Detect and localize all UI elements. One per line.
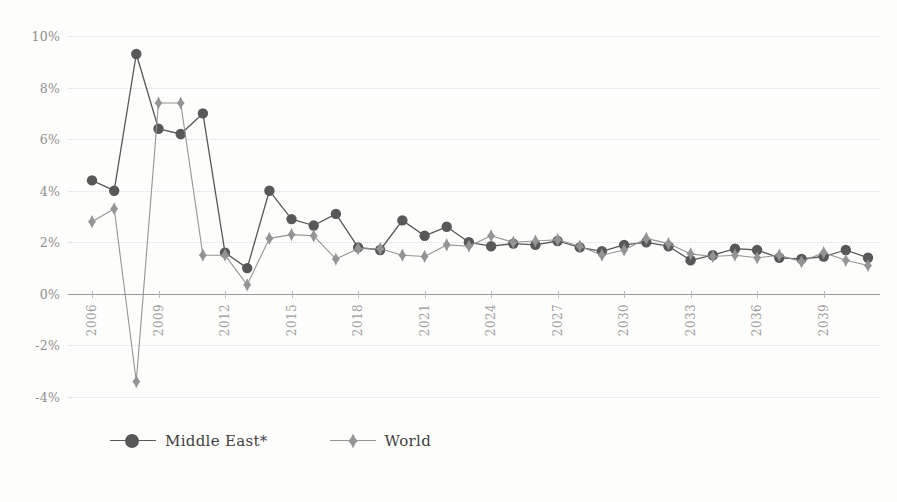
series-world (88, 96, 872, 388)
x-axis-tick-label: 2039 (817, 304, 831, 336)
data-point-circle (264, 186, 274, 196)
x-axis-tick (558, 291, 559, 298)
series-middle-east (87, 49, 873, 273)
x-axis-tick (491, 291, 492, 298)
data-point-diamond (332, 252, 340, 265)
series-line (92, 54, 868, 268)
y-axis-tick-label: 4% (40, 183, 60, 198)
diamond-marker-icon (330, 434, 376, 448)
legend-circle-icon (125, 434, 139, 448)
x-axis-tick (358, 291, 359, 298)
x-axis-tick (92, 291, 93, 298)
x-axis-tick (757, 291, 758, 298)
x-axis-tick-label: 2036 (750, 304, 764, 336)
data-point-circle (841, 245, 851, 255)
legend-item-middle-east[interactable]: Middle East* (110, 432, 268, 450)
data-point-circle (309, 220, 319, 230)
data-point-circle (442, 222, 452, 232)
y-axis-tick-label: -2% (35, 338, 60, 353)
y-axis-tick-label: 0% (40, 286, 60, 301)
x-axis-tick-label: 2024 (484, 304, 498, 336)
data-point-circle (131, 49, 141, 59)
data-point-diamond (88, 215, 96, 228)
x-axis-tick-label: 2021 (418, 304, 432, 336)
x-axis-tick (292, 291, 293, 298)
x-axis-tick-label: 2009 (152, 304, 166, 336)
data-point-circle (286, 214, 296, 224)
data-point-diamond (421, 250, 429, 263)
data-point-circle (331, 209, 341, 219)
x-axis-tick (624, 291, 625, 298)
data-point-diamond (842, 254, 850, 267)
data-point-diamond (487, 229, 495, 242)
x-axis-tick (159, 291, 160, 298)
data-point-circle (198, 108, 208, 118)
data-point-diamond (443, 238, 451, 251)
y-axis-tick-label: 10% (32, 29, 60, 44)
x-axis-tick (691, 291, 692, 298)
x-axis-tick-label: 2012 (218, 304, 232, 336)
y-axis-tick-label: -4% (35, 390, 60, 405)
data-point-circle (486, 241, 496, 251)
data-point-circle (153, 124, 163, 134)
circle-marker-icon (110, 434, 156, 448)
chart-legend: Middle East*World (110, 432, 431, 450)
data-point-diamond (110, 202, 118, 215)
legend-diamond-icon (345, 434, 359, 448)
plot-area: 2006200920122015201820212024202720302033… (68, 0, 880, 502)
y-axis-tick-label: 2% (40, 235, 60, 250)
x-axis-tick (425, 291, 426, 298)
series-layer (68, 0, 880, 502)
y-axis-tick-label: 6% (40, 132, 60, 147)
x-axis-tick (824, 291, 825, 298)
legend-item-world[interactable]: World (330, 432, 432, 450)
x-axis-tick (225, 291, 226, 298)
data-point-diamond (288, 228, 296, 241)
y-axis-tick-label: 8% (40, 80, 60, 95)
x-axis-tick-label: 2015 (285, 304, 299, 336)
data-point-diamond (132, 375, 140, 388)
data-point-diamond (310, 229, 318, 242)
data-point-circle (87, 175, 97, 185)
data-point-diamond (154, 96, 162, 109)
data-point-diamond (265, 232, 273, 245)
legend-label: Middle East* (165, 432, 268, 450)
line-chart: 10%8%6%4%2%0%-2%-4% 20062009201220152018… (0, 0, 897, 502)
data-point-circle (242, 263, 252, 273)
x-axis-tick-label: 2027 (551, 304, 565, 336)
x-axis-tick-label: 2033 (684, 304, 698, 336)
data-point-circle (109, 186, 119, 196)
y-axis: 10%8%6%4%2%0%-2%-4% (14, 0, 60, 502)
data-point-circle (397, 215, 407, 225)
x-axis-tick-label: 2006 (85, 304, 99, 336)
legend-label: World (385, 432, 432, 450)
data-point-circle (419, 231, 429, 241)
x-axis-tick-label: 2030 (617, 304, 631, 336)
x-axis-tick-label: 2018 (351, 304, 365, 336)
data-point-diamond (177, 96, 185, 109)
